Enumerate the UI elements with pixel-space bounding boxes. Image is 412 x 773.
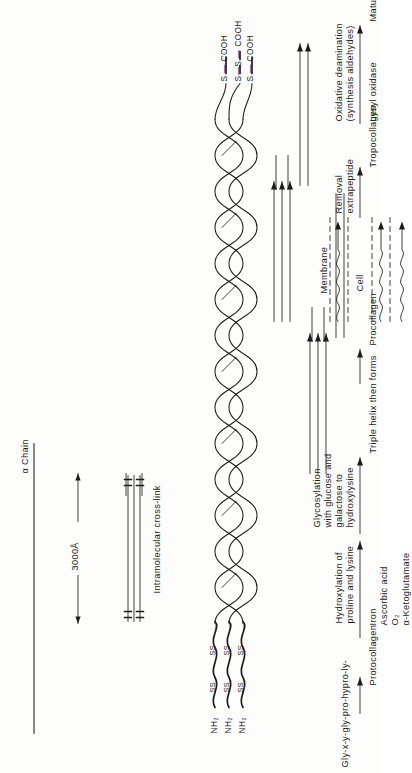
cofactor-ketoglutamate-label: α-Ketoglutamate bbox=[401, 552, 412, 625]
n-terminal-tails bbox=[213, 621, 244, 707]
glycosylation-label-line3: galactose to bbox=[334, 473, 345, 527]
intramolecular-crosslink-label: Intramolecular cross-link bbox=[152, 485, 163, 593]
disulfide-label-5: SS bbox=[236, 681, 245, 692]
alpha-chain-label: α Chain bbox=[20, 439, 31, 473]
removal-extrapeptide-label-line1: Removal bbox=[334, 174, 345, 213]
disulfide-label-2: SS bbox=[208, 644, 217, 655]
hydroxylation-label-line1: Hydroxylation of bbox=[334, 552, 345, 623]
staggered-fibril-array-upper bbox=[307, 193, 344, 473]
pathway-arrows bbox=[357, 25, 363, 713]
glycosylation-label-line2: with glucose and bbox=[323, 453, 334, 527]
disulfide-label-1: SS bbox=[208, 681, 217, 692]
cell-label: Cell bbox=[355, 274, 366, 291]
n-terminus-label-3: NH₂ bbox=[237, 717, 247, 733]
n-terminus-label-2: NH₂ bbox=[223, 717, 233, 733]
length-3000a-label: 3000Å bbox=[70, 542, 81, 570]
staggered-fibril-array-lower bbox=[271, 43, 311, 321]
mature-fibril-label: Mature cross-linked fibril bbox=[368, 0, 379, 21]
lysyl-oxidase-label: Lysyl oxidase bbox=[368, 62, 379, 121]
glycosylation-label-line1: Glycosylation bbox=[312, 468, 323, 527]
disulfide-label-4: SS bbox=[222, 644, 231, 655]
disulfide-label-6: SS bbox=[236, 644, 245, 655]
cofactor-ascorbic-acid-label: Ascorbic acid bbox=[379, 566, 390, 625]
membrane-label: Membrane bbox=[319, 246, 330, 293]
protocollagen-label: Protocollagen bbox=[368, 624, 379, 685]
hydroxylation-label-line2: proline and lysine bbox=[345, 545, 356, 623]
cofactor-iron-label: Iron bbox=[368, 608, 379, 625]
removal-extrapeptide-label-line2: extrapeptide bbox=[345, 158, 356, 213]
cofactor-o2-label: O₂ bbox=[390, 614, 401, 625]
triple-helix-braid bbox=[215, 119, 257, 623]
c-terminus-label-2: S—S — COOH bbox=[233, 20, 243, 81]
procollagen-label: Procollagen bbox=[368, 293, 379, 345]
triple-helix-forms-label: Triple helix then forms bbox=[368, 355, 379, 453]
oxidative-deamination-label-line1: Oxidative deamination bbox=[334, 23, 345, 121]
disulfide-label-3: SS bbox=[222, 681, 231, 692]
glycosylation-label-line4: hydroxylysine bbox=[345, 467, 356, 527]
pathway-start-label: Gly-x-y-gly-pro-hypro-ly- bbox=[340, 659, 351, 767]
c-terminus-label-1: S — COOH bbox=[219, 34, 229, 81]
n-terminus-label-1: NH₂ bbox=[209, 717, 219, 733]
oxidative-deamination-label-line2: (synthesis aldehydes) bbox=[345, 25, 356, 121]
crosslinked-triple-strand bbox=[125, 473, 144, 621]
c-terminus-label-3: S — COOH bbox=[245, 34, 255, 81]
